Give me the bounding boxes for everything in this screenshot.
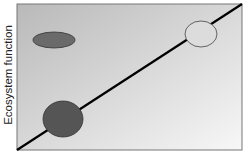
light-circle-on-line xyxy=(185,21,217,47)
diagram-canvas xyxy=(0,0,243,154)
flat-ellipse-upper-left xyxy=(33,32,75,48)
large-dark-circle-on-line xyxy=(43,101,83,137)
